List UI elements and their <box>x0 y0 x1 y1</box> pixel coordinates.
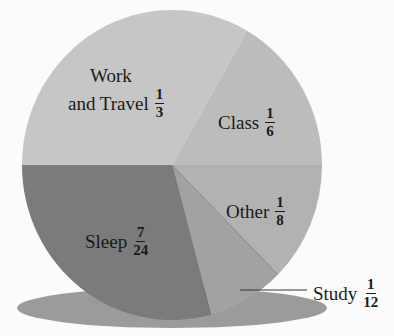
other-fraction: 1 8 <box>275 195 285 228</box>
class-fraction: 1 6 <box>265 106 275 139</box>
study-den: 12 <box>363 294 378 310</box>
label-class: Class 1 6 <box>218 106 275 139</box>
work-line1: Work <box>90 66 132 85</box>
label-work-and-travel: Work and Travel 1 3 <box>68 66 164 120</box>
label-sleep: Sleep 7 24 <box>85 225 148 258</box>
class-num: 1 <box>265 106 275 123</box>
other-num: 1 <box>275 195 285 212</box>
work-den: 3 <box>156 104 164 120</box>
class-text: Class <box>218 113 259 132</box>
study-num: 1 <box>366 277 376 294</box>
other-den: 8 <box>276 212 284 228</box>
label-other: Other 1 8 <box>226 195 285 228</box>
sleep-den: 24 <box>133 242 148 258</box>
sleep-text: Sleep <box>85 232 127 251</box>
study-fraction: 1 12 <box>363 277 378 310</box>
work-line2: and Travel <box>68 94 149 113</box>
work-num: 1 <box>155 87 165 104</box>
work-fraction: 1 3 <box>155 87 165 120</box>
sleep-fraction: 7 24 <box>133 225 148 258</box>
study-text: Study <box>313 284 357 303</box>
class-den: 6 <box>266 123 274 139</box>
other-text: Other <box>226 202 269 221</box>
sleep-num: 7 <box>136 225 146 242</box>
label-study: Study 1 12 <box>313 277 378 310</box>
